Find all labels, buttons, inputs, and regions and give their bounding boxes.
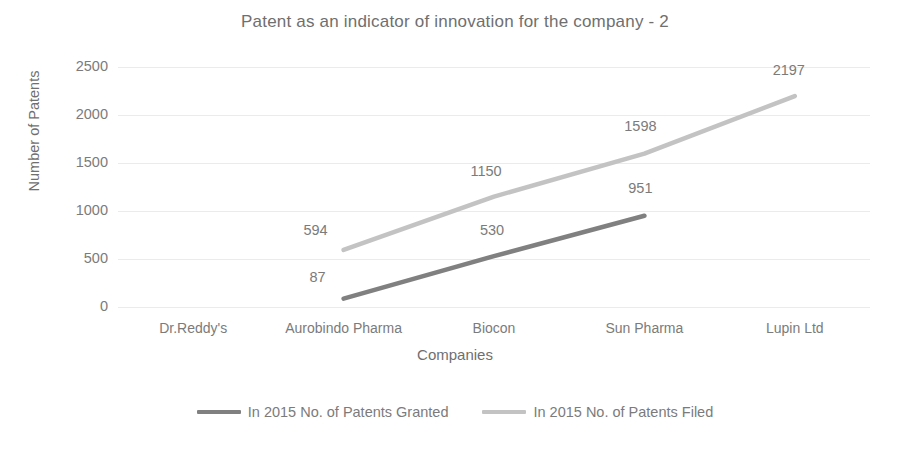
data-label: 594: [303, 222, 327, 238]
y-tick-label: 1500: [48, 154, 108, 170]
data-label: 2197: [773, 62, 805, 78]
legend-label: In 2015 No. of Patents Filed: [533, 404, 713, 420]
legend-swatch-icon: [197, 410, 241, 414]
x-tick-label: Aurobindo Pharma: [285, 320, 402, 336]
legend-swatch-icon: [482, 410, 526, 414]
x-tick-label: Lupin Ltd: [766, 320, 824, 336]
chart-container: Patent as an indicator of innovation for…: [0, 0, 910, 450]
gridline: [118, 307, 870, 308]
data-label: 951: [628, 180, 652, 196]
data-label: 87: [310, 269, 326, 285]
x-tick-label: Dr.Reddy's: [159, 320, 227, 336]
data-label: 1598: [624, 118, 656, 134]
gridline: [118, 67, 870, 68]
y-tick-label: 2500: [48, 58, 108, 74]
y-axis-ticks: 05001000150020002500: [48, 67, 108, 307]
x-axis-title: Companies: [0, 346, 910, 363]
legend-label: In 2015 No. of Patents Granted: [248, 404, 449, 420]
y-tick-label: 1000: [48, 202, 108, 218]
data-label: 1150: [470, 163, 501, 179]
chart-title: Patent as an indicator of innovation for…: [0, 12, 910, 32]
y-tick-label: 500: [48, 250, 108, 266]
legend-item[interactable]: In 2015 No. of Patents Filed: [482, 404, 713, 420]
gridline: [118, 211, 870, 212]
y-tick-label: 2000: [48, 106, 108, 122]
x-tick-label: Sun Pharma: [605, 320, 683, 336]
chart-legend: In 2015 No. of Patents GrantedIn 2015 No…: [0, 404, 910, 420]
gridline: [118, 259, 870, 260]
plot-area: [118, 67, 870, 307]
y-axis-title: Number of Patents: [26, 31, 42, 231]
data-label: 530: [480, 222, 504, 238]
x-tick-label: Biocon: [473, 320, 516, 336]
y-tick-label: 0: [48, 298, 108, 314]
gridline: [118, 115, 870, 116]
legend-item[interactable]: In 2015 No. of Patents Granted: [197, 404, 449, 420]
